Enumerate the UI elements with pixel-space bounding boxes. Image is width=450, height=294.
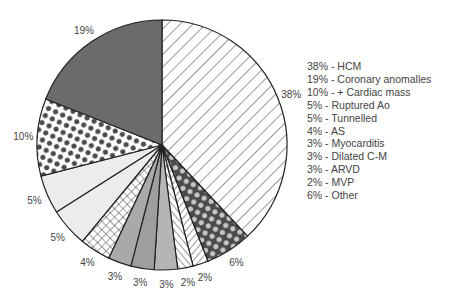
chart-legend: 38% - HCM 19% - Coronary anomalles 10% -…	[307, 60, 431, 202]
legend-item-tunnelled: 5% - Tunnelled	[307, 112, 431, 125]
slice-percent-label: 3%	[159, 279, 174, 290]
legend-item-ruptured-ao: 5% - Ruptured Ao	[307, 99, 431, 112]
slice-percent-label: 19%	[74, 25, 94, 36]
legend-item-as: 4% - AS	[307, 125, 431, 138]
legend-item-hcm: 38% - HCM	[307, 60, 431, 73]
legend-item-coronary-anomalies: 19% - Coronary anomalles	[307, 73, 431, 86]
slice-percent-label: 38%	[281, 89, 301, 100]
slice-percent-label: 4%	[80, 257, 95, 268]
slice-percent-label: 3%	[108, 271, 123, 282]
legend-item-mvp: 2% - MVP	[307, 176, 431, 189]
slice-percent-label: 10%	[13, 131, 33, 142]
slice-percent-label: 5%	[27, 195, 42, 206]
legend-item-cardiac-mass: 10% - + Cardiac mass	[307, 86, 431, 99]
pie-slices	[37, 20, 287, 270]
legend-item-myocarditis: 3% - Myocarditis	[307, 137, 431, 150]
legend-item-dilated-cm: 3% - Dilated C-M	[307, 150, 431, 163]
legend-item-arvd: 3% - ARVD	[307, 163, 431, 176]
slice-percent-label: 6%	[229, 257, 244, 268]
slice-percent-label: 3%	[133, 277, 148, 288]
slice-percent-label: 2%	[198, 272, 213, 283]
legend-item-other: 6% - Other	[307, 189, 431, 202]
slice-percent-label: 2%	[181, 277, 196, 288]
slice-percent-label: 5%	[50, 232, 65, 243]
